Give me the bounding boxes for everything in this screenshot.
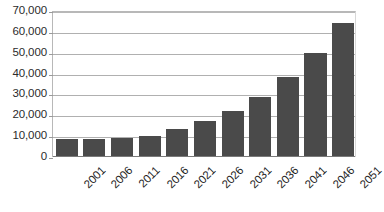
bar — [304, 53, 326, 157]
bar — [194, 121, 216, 157]
bar — [277, 77, 299, 157]
bar — [139, 136, 161, 157]
x-axis-tick-label: 2031 — [247, 164, 273, 190]
x-axis-tick-label: 2041 — [302, 164, 328, 190]
y-axis-tick-labels: 010,00020,00030,00040,00050,00060,00070,… — [0, 0, 50, 212]
x-axis-tick-label: 2051 — [358, 164, 384, 190]
y-axis-tick-label: 50,000 — [12, 47, 47, 59]
x-axis-tick-label: 2046 — [330, 164, 356, 190]
x-axis-tick-label: 2016 — [164, 164, 190, 190]
x-axis-tick-label: 2001 — [81, 164, 107, 190]
x-axis-tick-labels: 2001200620112016202120262031203620412046… — [52, 158, 356, 212]
x-axis-tick-label: 2036 — [275, 164, 301, 190]
y-axis-tick-label: 60,000 — [12, 26, 47, 38]
bar — [166, 129, 188, 157]
x-axis-tick-label: 2011 — [136, 164, 162, 190]
bar — [111, 138, 133, 157]
y-axis-tick-label: 0 — [41, 151, 47, 163]
bars-container — [53, 12, 355, 157]
y-axis-tick-label: 20,000 — [12, 110, 47, 122]
bar — [83, 139, 105, 157]
x-axis-tick-label: 2026 — [219, 164, 245, 190]
x-axis-tick-label: 2006 — [109, 164, 135, 190]
y-axis-tick-label: 10,000 — [12, 130, 47, 142]
x-axis-baseline — [53, 156, 355, 157]
plot-area — [52, 11, 356, 157]
y-axis-tick-label: 40,000 — [12, 68, 47, 80]
x-axis-tick-label: 2021 — [192, 164, 218, 190]
y-axis-tick-label: 30,000 — [12, 89, 47, 101]
bar — [332, 23, 354, 157]
bar — [249, 97, 271, 157]
bar — [222, 111, 244, 157]
y-axis-tick-label: 70,000 — [12, 5, 47, 17]
bar — [56, 139, 78, 157]
